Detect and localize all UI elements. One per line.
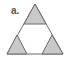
bottom-left-shaded-triangle (7, 35, 27, 54)
bottom-right-shaded-triangle (42, 35, 63, 54)
sierpinski-diagram (0, 0, 67, 57)
top-shaded-triangle (24, 4, 46, 24)
